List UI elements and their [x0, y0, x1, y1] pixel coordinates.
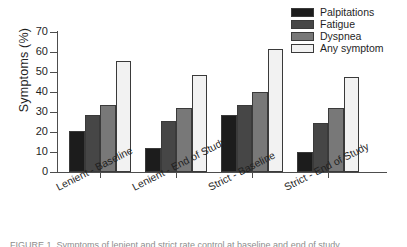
y-tick-mark [50, 152, 57, 153]
legend-swatch-icon [291, 8, 314, 17]
legend-swatch-icon [291, 44, 314, 53]
legend-label: Dyspnea [320, 31, 361, 42]
legend-label: Any symptom [320, 43, 384, 54]
y-tick-label: 10 [2, 145, 48, 157]
y-tick-mark [50, 72, 57, 73]
y-tick-label: 30 [2, 105, 48, 117]
x-tick-mark [252, 172, 253, 178]
x-tick-mark [328, 172, 329, 178]
y-tick-label: 40 [2, 85, 48, 97]
y-tick-label: 0 [2, 165, 48, 177]
legend-label: Fatigue [320, 19, 355, 30]
y-tick-label: 20 [2, 125, 48, 137]
legend-item: Palpitations [291, 7, 403, 19]
y-tick-mark [50, 132, 57, 133]
x-tick-mark [100, 172, 101, 178]
legend-item: Dyspnea [291, 31, 403, 43]
legend-item: Fatigue [291, 19, 403, 31]
y-tick-label: 60 [2, 45, 48, 57]
y-tick-label: 70 [2, 25, 48, 37]
figure-bar-chart: Symptoms (%) 010203040506070 Lenient - B… [0, 0, 407, 247]
legend-swatch-icon [291, 20, 314, 29]
x-tick-mark [176, 172, 177, 178]
y-tick-mark [50, 92, 57, 93]
legend-item: Any symptom [291, 43, 403, 55]
bar [69, 131, 85, 172]
legend-swatch-icon [291, 32, 314, 41]
y-tick-mark [50, 172, 57, 173]
y-tick-mark [50, 52, 57, 53]
legend-label: Palpitations [320, 7, 374, 18]
y-tick-mark [50, 112, 57, 113]
y-tick-mark [50, 32, 57, 33]
y-tick-label: 50 [2, 65, 48, 77]
legend: PalpitationsFatigueDyspneaAny symptom [291, 7, 403, 55]
figure-caption-sliver: FIGURE 1. Symptoms of lenient and strict… [10, 240, 400, 247]
